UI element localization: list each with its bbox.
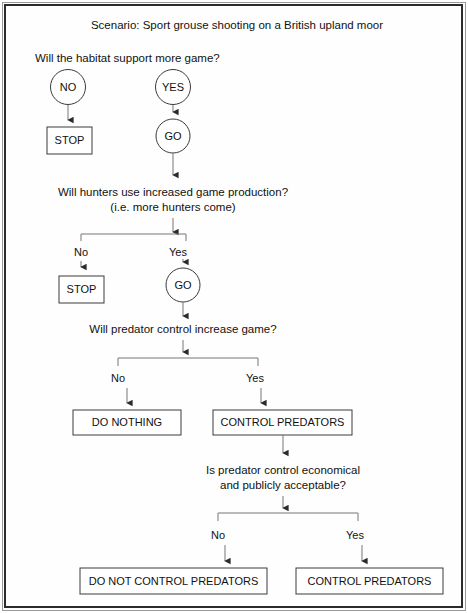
- branch-label-question-3-no: No: [111, 372, 125, 384]
- branch-label-question-4-yes: Yes: [346, 529, 364, 541]
- stop-box-1-label: STOP: [55, 134, 85, 146]
- go-circle-1-label: GO: [164, 130, 182, 142]
- stop-box-2-label: STOP: [67, 283, 97, 295]
- go-circle-2-label: GO: [174, 279, 192, 291]
- control-predators-box-2-label: CONTROL PREDATORS: [308, 575, 432, 587]
- control-predators-box-1-label: CONTROL PREDATORS: [221, 416, 345, 428]
- question-4-line-1: Is predator control economical: [206, 464, 360, 476]
- yes-circle-label: YES: [162, 81, 184, 93]
- branch-label-question-2-no: No: [74, 246, 88, 258]
- question-2-line-1: Will hunters use increased game producti…: [58, 186, 288, 198]
- flowchart-container: Scenario: Sport grouse shooting on a Bri…: [0, 0, 468, 613]
- do-nothing-box-label: DO NOTHING: [92, 416, 162, 428]
- question-4-line-2: and publicly acceptable?: [220, 479, 346, 491]
- branch-label-question-3-yes: Yes: [246, 372, 264, 384]
- do-not-control-predators-box-label: DO NOT CONTROL PREDATORS: [89, 575, 259, 587]
- no-circle-label: NO: [60, 81, 77, 93]
- question-1-text: Will the habitat support more game?: [35, 52, 220, 64]
- question-3-text: Will predator control increase game?: [89, 323, 276, 335]
- branch-label-question-4-no: No: [211, 529, 225, 541]
- scenario-title: Scenario: Sport grouse shooting on a Bri…: [91, 19, 383, 31]
- question-2-line-2: (i.e. more hunters come): [110, 201, 235, 213]
- branch-label-question-2-yes: Yes: [169, 246, 187, 258]
- flowchart-svg: Scenario: Sport grouse shooting on a Bri…: [0, 0, 468, 613]
